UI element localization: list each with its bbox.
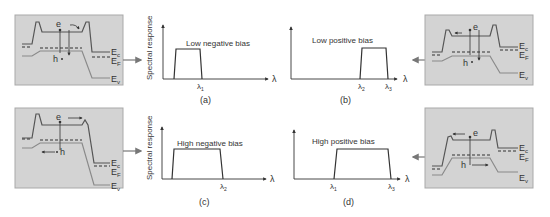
band-diagram-d: e h Ec EF Ev (413, 108, 533, 188)
x-axis-label-c: λ (270, 174, 275, 184)
electron-label: e (56, 19, 61, 29)
spectral-plot-c: Spectral response High negative bias λ2 … (145, 115, 275, 207)
hole-label: h (463, 58, 468, 68)
band-diagram-a: e h Ec EF Ev (15, 15, 141, 85)
y-axis-label-a: Spectral response (145, 15, 154, 80)
electron-label: e (473, 22, 478, 32)
hole-label: h (53, 54, 58, 64)
tick-lambda2-c: λ2 (220, 182, 227, 192)
spectral-plot-d: High positive bias λ1 λ3 λ (d) (294, 130, 410, 207)
electron-label: e (56, 112, 61, 122)
spectral-plot-a: Spectral response Low negative bias λ1 λ… (145, 15, 277, 105)
tick-lambda3-d: λ3 (388, 182, 395, 192)
hole-label: h (461, 160, 466, 170)
diagram-canvas: e h Ec EF Ev Spectral response Low negat… (0, 0, 550, 217)
plot-title-d: High positive bias (312, 137, 375, 146)
tick-lambda3-b: λ3 (385, 82, 392, 92)
band-diagram-c: e h Ec EF Ev (15, 108, 141, 192)
caption-b: (b) (340, 95, 351, 105)
x-axis-label-a: λ (272, 74, 277, 84)
spectral-plot-b: Low positive bias λ2 λ3 λ (b) (291, 27, 408, 105)
plot-title-a: Low negative bias (186, 39, 250, 48)
caption-c: (c) (199, 197, 210, 207)
tick-lambda1-d: λ1 (330, 182, 337, 192)
tick-lambda2-b: λ2 (358, 82, 365, 92)
electron-label: e (473, 128, 478, 138)
band-diagram-b: e h Ec EF Ev (413, 15, 533, 85)
tick-lambda1-a: λ1 (197, 82, 204, 92)
x-axis-label-b: λ (403, 74, 408, 84)
caption-d: (d) (343, 197, 354, 207)
y-axis-label-c: Spectral response (145, 115, 154, 180)
hole-label: h (60, 147, 65, 157)
x-axis-label-d: λ (405, 174, 410, 184)
caption-a: (a) (200, 95, 211, 105)
plot-title-b: Low positive bias (312, 36, 373, 45)
plot-title-c: High negative bias (177, 139, 243, 148)
